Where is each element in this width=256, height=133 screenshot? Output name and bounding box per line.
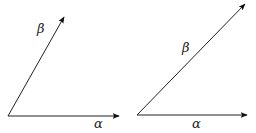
vector-beta-arrow	[137, 4, 245, 115]
vector-beta-label: β	[181, 40, 190, 55]
vector-alpha-label: α	[192, 116, 201, 131]
right-diagram: αβ	[137, 4, 247, 131]
vector-diagram: αβαβ	[0, 0, 256, 133]
vector-beta-label: β	[36, 21, 45, 36]
vector-alpha-label: α	[94, 116, 103, 131]
vector-beta-arrow	[8, 17, 64, 116]
left-diagram: αβ	[8, 17, 119, 131]
